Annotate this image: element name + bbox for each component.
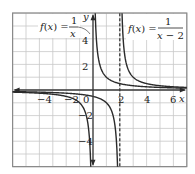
y-tick-label: −2 <box>78 110 93 121</box>
y-tick-label: 4 <box>82 35 88 46</box>
y-tick-label: 2 <box>82 61 88 72</box>
equation-numerator: 1 <box>71 15 77 26</box>
x-tick-label: −2 <box>64 94 79 105</box>
x-axis-label: x <box>179 93 185 104</box>
y-axis-label: y <box>82 11 89 22</box>
equation-lhs: f(x) = <box>127 23 157 34</box>
equation-denominator: x <box>70 28 76 39</box>
x-tick-label: 4 <box>144 94 150 105</box>
equation-lhs: f(x) = <box>39 21 69 32</box>
equation-numerator: 1 <box>165 16 171 27</box>
x-tick-label: −4 <box>37 94 52 105</box>
x-tick-label: 0 <box>83 94 89 105</box>
y-tick-label: −4 <box>78 136 93 147</box>
equation-label-1-over-x-minus-2: f(x) = 1 x − 2 <box>126 14 186 41</box>
x-tick-label: 2 <box>118 94 124 105</box>
graph-canvas: x y −4 −2 0 2 4 6 4 2 −2 −4 f(x) = 1 x f… <box>0 0 195 174</box>
equation-denominator: x − 2 <box>157 30 184 41</box>
x-tick-label: 6 <box>170 94 176 105</box>
